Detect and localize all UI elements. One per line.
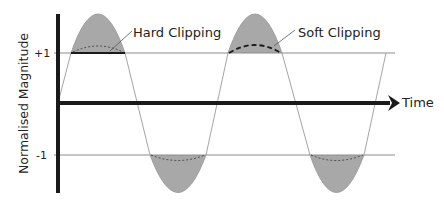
soft-clipping-label: Soft Clipping bbox=[298, 25, 381, 40]
soft-clipping-pointer bbox=[274, 30, 295, 46]
x-axis-label: Time bbox=[401, 95, 434, 110]
y-axis-label: Normalised Magnitude bbox=[16, 33, 31, 174]
plus-one-tick-label: +1 bbox=[34, 47, 50, 60]
minus-one-tick-label: -1 bbox=[36, 149, 47, 162]
clipping-diagram: Hard Clipping Soft Clipping +1 -1 Time N… bbox=[0, 0, 444, 208]
hard-clipping-label: Hard Clipping bbox=[133, 25, 221, 40]
